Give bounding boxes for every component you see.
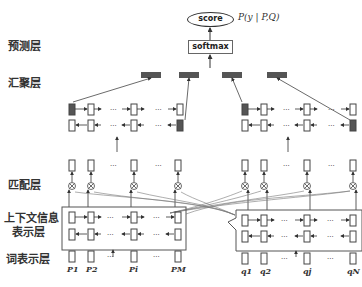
svg-text:···: ··· <box>281 217 288 225</box>
svg-text:···: ··· <box>107 231 114 239</box>
svg-text:···: ··· <box>153 214 160 222</box>
svg-text:···: ··· <box>328 106 335 114</box>
svg-text:···: ··· <box>155 162 162 170</box>
svg-text:···: ··· <box>110 106 117 114</box>
token-p2: P2 <box>86 264 98 274</box>
diagram-graphics: ······ ······ ······ ······ ······ ·····… <box>0 0 362 287</box>
svg-text:···: ··· <box>155 106 162 114</box>
svg-text:···: ··· <box>328 162 335 170</box>
svg-text:···: ··· <box>155 122 162 130</box>
token-qn: qN <box>347 266 360 276</box>
svg-text:···: ··· <box>107 214 114 222</box>
svg-text:···: ··· <box>107 253 114 261</box>
svg-text:···: ··· <box>327 255 334 263</box>
bimpm-architecture-diagram: 预测层 汇聚层 匹配层 上下文信息 表示层 词表示层 score P(y | P… <box>0 0 362 287</box>
aggregation-bilstm-question <box>242 104 356 131</box>
svg-text:···: ··· <box>327 217 334 225</box>
svg-text:···: ··· <box>110 162 117 170</box>
token-qj: qj <box>303 266 312 276</box>
token-q2: q2 <box>260 266 271 276</box>
token-p1: P1 <box>67 264 79 274</box>
svg-text:···: ··· <box>153 253 160 261</box>
svg-text:···: ··· <box>110 122 117 130</box>
svg-text:···: ··· <box>281 233 288 241</box>
token-pm: PM <box>171 264 186 274</box>
svg-text:···: ··· <box>281 255 288 263</box>
svg-text:···: ··· <box>327 233 334 241</box>
svg-text:···: ··· <box>283 162 290 170</box>
svg-text:···: ··· <box>153 231 160 239</box>
token-pi: Pi <box>129 264 138 274</box>
svg-text:···: ··· <box>328 122 335 130</box>
context-box-passage <box>62 207 186 250</box>
svg-text:···: ··· <box>283 106 290 114</box>
aggregation-bilstm-passage <box>69 104 183 131</box>
aggregation-vectors <box>141 72 287 78</box>
multi-perspective-match-ops <box>69 183 357 190</box>
cross-matching-lines <box>75 191 350 215</box>
token-q1: q1 <box>241 266 252 276</box>
svg-text:···: ··· <box>283 122 290 130</box>
